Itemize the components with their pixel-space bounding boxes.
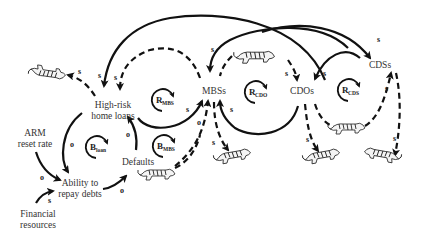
svg-text:MBS: MBS	[162, 100, 174, 106]
node-financial-resources: Financial resources	[20, 209, 56, 230]
svg-text:reset rate: reset rate	[18, 139, 53, 149]
svg-text:o: o	[40, 173, 44, 182]
node-cdos: CDOs	[290, 86, 314, 96]
loop-r-mbs: R MBS	[152, 89, 174, 111]
tiger-icon	[234, 51, 275, 63]
node-defaults: Defaults	[122, 157, 154, 167]
tiger-icon	[302, 148, 341, 165]
svg-text:o: o	[126, 130, 130, 139]
tiger-icon	[363, 147, 402, 164]
link-tiger2-to-cdos	[288, 60, 297, 80]
svg-text:High-risk: High-risk	[95, 100, 132, 110]
svg-text:s: s	[285, 69, 288, 78]
svg-text:s: s	[98, 71, 101, 80]
svg-text:Ability to: Ability to	[62, 178, 99, 188]
svg-text:s: s	[212, 138, 215, 147]
svg-text:s: s	[48, 196, 51, 205]
svg-text:home loans: home loans	[91, 111, 135, 121]
loop-r-cdo: R CDO	[245, 81, 268, 103]
node-mbss: MBSs	[202, 86, 226, 96]
link-cdss-to-mbss	[210, 28, 348, 71]
tiger-icon	[213, 148, 252, 165]
svg-text:repay debts: repay debts	[58, 189, 102, 199]
svg-text:loan: loan	[96, 147, 106, 153]
svg-text:s: s	[186, 105, 189, 114]
loop-b-loan: B loan	[86, 136, 107, 158]
link-cdos-to-cdss	[315, 73, 391, 127]
node-high-risk-loans: High-risk home loans	[91, 100, 135, 121]
loop-r-cds: R CDS	[338, 79, 359, 101]
svg-text:o: o	[70, 140, 74, 149]
tiger-icon	[28, 64, 66, 80]
link-tiger2-to-mbss	[220, 56, 232, 76]
svg-text:s: s	[230, 105, 233, 114]
node-ability-to-repay: Ability to repay debts	[58, 178, 102, 199]
svg-text:ARM: ARM	[24, 128, 46, 138]
svg-text:s: s	[323, 69, 326, 78]
svg-text:o: o	[197, 118, 201, 127]
svg-text:resources: resources	[20, 220, 56, 230]
causal-loop-diagram: High-risk home loans MBSs CDOs CDSs ARM …	[0, 0, 421, 237]
svg-text:CDS: CDS	[348, 90, 359, 96]
svg-text:o: o	[120, 186, 124, 195]
svg-text:s: s	[78, 67, 81, 76]
loop-b-mbs: B MBS	[153, 135, 175, 157]
link-highrisk-to-tiger1	[68, 75, 95, 96]
svg-text:s: s	[114, 73, 117, 82]
node-cdss: CDSs	[369, 60, 391, 70]
tiger-icon	[138, 169, 175, 180]
svg-text:s: s	[393, 134, 396, 143]
link-mbss-to-highrisk-dashed	[120, 48, 200, 89]
svg-text:s: s	[377, 35, 380, 44]
svg-text:Financial: Financial	[20, 209, 56, 219]
node-arm-reset-rate: ARM reset rate	[18, 128, 53, 149]
link-defaults-to-mbss	[175, 101, 208, 166]
svg-text:s: s	[306, 135, 309, 144]
svg-text:MBS: MBS	[163, 146, 175, 152]
tiger-icon	[328, 123, 365, 134]
svg-text:s: s	[211, 45, 214, 54]
svg-text:CDO: CDO	[255, 92, 268, 98]
svg-text:s: s	[385, 84, 388, 93]
